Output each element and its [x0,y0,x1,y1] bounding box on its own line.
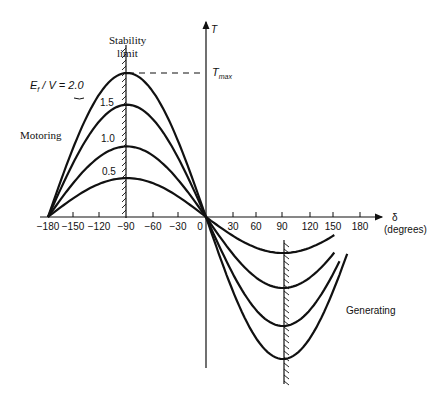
plot-graphics [0,0,447,406]
curve-label-0-5: 0.5 [102,167,116,177]
tick-p60: 60 [250,221,261,232]
tick-p150: 150 [325,221,342,232]
torque-curve [48,73,347,359]
tick-n150: −150 [62,221,85,232]
tick-p120: 120 [302,221,319,232]
tick-p180: 180 [352,221,369,232]
torque-angle-diagram: Stability limit Ef / V = 2.0 1.5 1.0 0.5… [0,0,447,406]
tick-n120: −120 [88,221,111,232]
torque-curve [48,178,334,253]
degrees-label: (degrees) [384,225,427,235]
tick-n90: −90 [118,221,135,232]
limit-label: limit [117,48,138,59]
delta-symbol: δ [392,213,398,223]
torque-curve [48,105,340,326]
generating-label: Generating [346,306,395,316]
tick-0: 0 [197,221,203,232]
tick-n180: −180 [37,221,60,232]
tick-n30: −30 [170,221,187,232]
motoring-label: Motoring [20,130,62,141]
ratio-label: Ef / V = 2.0 [30,80,84,93]
tick-n60: −60 [145,221,162,232]
x-ticks [73,212,360,217]
tmax-label: Tmax [212,67,232,80]
stability-label: Stability [109,35,146,46]
tick-p90: 90 [276,221,287,232]
curve-label-1-5: 1.5 [100,98,114,108]
t-axis-label: T [211,25,217,35]
tick-p30: 30 [227,221,238,232]
curve-label-1-0: 1.0 [101,134,115,144]
torque-curves [48,73,347,359]
